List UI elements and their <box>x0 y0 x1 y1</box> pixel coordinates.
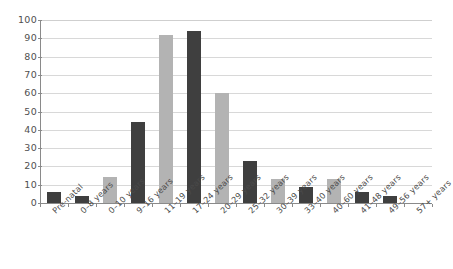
x-tick-mark <box>180 204 181 207</box>
gridline <box>40 75 432 76</box>
gridline <box>40 93 432 94</box>
y-axis: 0102030405060708090100 <box>0 0 37 269</box>
y-tick-mark <box>38 20 42 21</box>
y-tick-label: 90 <box>3 33 37 43</box>
y-tick-label: 20 <box>3 161 37 171</box>
x-tick-mark <box>96 204 97 207</box>
y-tick-label: 40 <box>3 125 37 135</box>
y-tick-mark <box>38 148 42 149</box>
x-tick-mark <box>152 204 153 207</box>
y-tick-mark <box>38 93 42 94</box>
x-tick-mark <box>124 204 125 207</box>
gridline <box>40 20 432 21</box>
x-tick-mark <box>320 204 321 207</box>
gridline <box>40 185 432 186</box>
y-tick-label: 60 <box>3 88 37 98</box>
y-tick-label: 30 <box>3 143 37 153</box>
gridline <box>40 130 432 131</box>
y-tick-label: 10 <box>3 180 37 190</box>
y-tick-mark <box>38 203 42 204</box>
y-tick-mark <box>38 75 42 76</box>
gridline <box>40 148 432 149</box>
y-tick-label: 100 <box>3 15 37 25</box>
y-tick-mark <box>38 57 42 58</box>
x-tick-mark <box>348 204 349 207</box>
y-tick-mark <box>38 38 42 39</box>
x-tick-mark <box>404 204 405 207</box>
x-tick-mark <box>40 204 41 207</box>
x-tick-mark <box>264 204 265 207</box>
x-tick-mark <box>376 204 377 207</box>
gridline <box>40 57 432 58</box>
x-tick-mark <box>208 204 209 207</box>
y-tick-label: 80 <box>3 52 37 62</box>
gridline <box>40 112 432 113</box>
gridline <box>40 38 432 39</box>
x-tick-mark <box>68 204 69 207</box>
y-tick-label: 50 <box>3 107 37 117</box>
gridline <box>40 166 432 167</box>
plot-area <box>40 20 432 203</box>
y-tick-label: 0 <box>3 198 37 208</box>
y-tick-mark <box>38 185 42 186</box>
x-tick-mark <box>236 204 237 207</box>
y-tick-mark <box>38 112 42 113</box>
y-tick-label: 70 <box>3 70 37 80</box>
x-tick-mark <box>292 204 293 207</box>
y-tick-mark <box>38 166 42 167</box>
x-tick-mark <box>432 204 433 207</box>
y-tick-mark <box>38 130 42 131</box>
